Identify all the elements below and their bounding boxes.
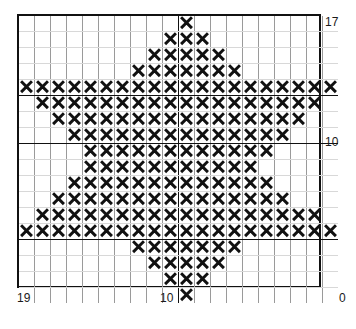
- stitch-cell-empty[interactable]: [115, 272, 131, 288]
- stitch-cell-empty[interactable]: [291, 16, 307, 32]
- stitch-cell-empty[interactable]: [83, 16, 99, 32]
- stitch-cell-empty[interactable]: [323, 64, 339, 80]
- stitch-cell-filled[interactable]: [227, 160, 243, 176]
- stitch-cell-filled[interactable]: [291, 224, 307, 240]
- stitch-cell-filled[interactable]: [99, 176, 115, 192]
- stitch-cell-empty[interactable]: [99, 16, 115, 32]
- stitch-cell-filled[interactable]: [131, 160, 147, 176]
- stitch-cell-empty[interactable]: [259, 48, 275, 64]
- stitch-cell-empty[interactable]: [307, 240, 323, 256]
- stitch-cell-filled[interactable]: [67, 224, 83, 240]
- stitch-cell-empty[interactable]: [291, 128, 307, 144]
- stitch-cell-empty[interactable]: [51, 160, 67, 176]
- stitch-cell-filled[interactable]: [243, 160, 259, 176]
- stitch-cell-filled[interactable]: [99, 96, 115, 112]
- stitch-cell-filled[interactable]: [147, 176, 163, 192]
- stitch-cell-filled[interactable]: [147, 64, 163, 80]
- stitch-cell-filled[interactable]: [51, 80, 67, 96]
- stitch-cell-empty[interactable]: [131, 32, 147, 48]
- stitch-cell-filled[interactable]: [195, 256, 211, 272]
- stitch-cell-empty[interactable]: [67, 240, 83, 256]
- stitch-cell-empty[interactable]: [227, 32, 243, 48]
- stitch-cell-empty[interactable]: [243, 16, 259, 32]
- stitch-cell-filled[interactable]: [195, 224, 211, 240]
- stitch-cell-filled[interactable]: [259, 96, 275, 112]
- stitch-cell-filled[interactable]: [323, 80, 339, 96]
- stitch-cell-empty[interactable]: [307, 32, 323, 48]
- stitch-cell-filled[interactable]: [275, 96, 291, 112]
- stitch-cell-filled[interactable]: [163, 128, 179, 144]
- stitch-cell-filled[interactable]: [51, 192, 67, 208]
- stitch-cell-filled[interactable]: [83, 176, 99, 192]
- stitch-cell-filled[interactable]: [163, 160, 179, 176]
- stitch-cell-filled[interactable]: [179, 240, 195, 256]
- stitch-cell-filled[interactable]: [131, 96, 147, 112]
- stitch-cell-filled[interactable]: [243, 80, 259, 96]
- stitch-cell-empty[interactable]: [83, 48, 99, 64]
- stitch-cell-empty[interactable]: [275, 176, 291, 192]
- stitch-cell-empty[interactable]: [291, 64, 307, 80]
- stitch-cell-empty[interactable]: [307, 288, 323, 304]
- stitch-cell-empty[interactable]: [67, 272, 83, 288]
- stitch-cell-empty[interactable]: [227, 16, 243, 32]
- stitch-cell-empty[interactable]: [67, 48, 83, 64]
- stitch-cell-filled[interactable]: [99, 144, 115, 160]
- stitch-cell-filled[interactable]: [115, 192, 131, 208]
- stitch-cell-filled[interactable]: [19, 80, 35, 96]
- stitch-cell-filled[interactable]: [211, 160, 227, 176]
- stitch-cell-empty[interactable]: [243, 288, 259, 304]
- stitch-cell-filled[interactable]: [83, 224, 99, 240]
- stitch-cell-empty[interactable]: [51, 176, 67, 192]
- stitch-cell-filled[interactable]: [259, 80, 275, 96]
- stitch-cell-empty[interactable]: [131, 288, 147, 304]
- stitch-cell-filled[interactable]: [291, 208, 307, 224]
- stitch-cell-filled[interactable]: [67, 96, 83, 112]
- stitch-cell-empty[interactable]: [291, 192, 307, 208]
- stitch-cell-empty[interactable]: [243, 64, 259, 80]
- stitch-cell-empty[interactable]: [259, 288, 275, 304]
- stitch-cell-empty[interactable]: [275, 16, 291, 32]
- stitch-cell-empty[interactable]: [51, 128, 67, 144]
- stitch-cell-filled[interactable]: [195, 240, 211, 256]
- stitch-cell-filled[interactable]: [179, 160, 195, 176]
- stitch-cell-empty[interactable]: [35, 160, 51, 176]
- stitch-cell-filled[interactable]: [67, 128, 83, 144]
- stitch-cell-filled[interactable]: [243, 144, 259, 160]
- stitch-cell-empty[interactable]: [19, 48, 35, 64]
- stitch-cell-empty[interactable]: [99, 240, 115, 256]
- stitch-cell-filled[interactable]: [99, 128, 115, 144]
- stitch-cell-empty[interactable]: [131, 256, 147, 272]
- stitch-cell-empty[interactable]: [323, 256, 339, 272]
- stitch-cell-empty[interactable]: [83, 272, 99, 288]
- stitch-cell-filled[interactable]: [179, 32, 195, 48]
- stitch-cell-filled[interactable]: [211, 256, 227, 272]
- stitch-cell-filled[interactable]: [99, 160, 115, 176]
- stitch-cell-filled[interactable]: [195, 272, 211, 288]
- stitch-cell-filled[interactable]: [307, 80, 323, 96]
- stitch-cell-filled[interactable]: [83, 160, 99, 176]
- stitch-cell-empty[interactable]: [275, 48, 291, 64]
- stitch-cell-filled[interactable]: [147, 112, 163, 128]
- stitch-cell-filled[interactable]: [147, 128, 163, 144]
- stitch-cell-empty[interactable]: [35, 128, 51, 144]
- stitch-cell-empty[interactable]: [19, 64, 35, 80]
- stitch-cell-empty[interactable]: [19, 208, 35, 224]
- stitch-cell-filled[interactable]: [147, 224, 163, 240]
- stitch-cell-filled[interactable]: [83, 112, 99, 128]
- stitch-cell-empty[interactable]: [323, 96, 339, 112]
- stitch-cell-filled[interactable]: [147, 240, 163, 256]
- stitch-cell-filled[interactable]: [163, 208, 179, 224]
- stitch-cell-empty[interactable]: [243, 256, 259, 272]
- stitch-cell-filled[interactable]: [147, 208, 163, 224]
- stitch-cell-empty[interactable]: [307, 192, 323, 208]
- stitch-cell-empty[interactable]: [35, 48, 51, 64]
- stitch-cell-filled[interactable]: [179, 48, 195, 64]
- stitch-cell-filled[interactable]: [131, 112, 147, 128]
- stitch-cell-empty[interactable]: [307, 272, 323, 288]
- stitch-cell-filled[interactable]: [147, 256, 163, 272]
- stitch-cell-empty[interactable]: [291, 32, 307, 48]
- stitch-cell-filled[interactable]: [51, 208, 67, 224]
- stitch-cell-empty[interactable]: [51, 144, 67, 160]
- stitch-cell-filled[interactable]: [195, 144, 211, 160]
- stitch-cell-filled[interactable]: [51, 96, 67, 112]
